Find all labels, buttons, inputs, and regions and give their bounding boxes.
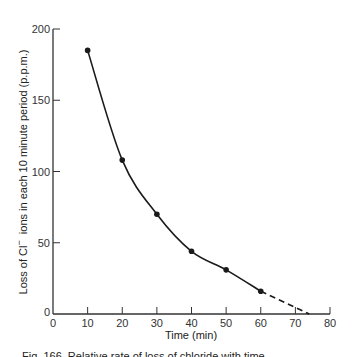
data-point [119,157,125,163]
chart: 01020304050607080050100150200 Time (min)… [0,0,352,357]
x-tick-label: 30 [151,317,163,329]
y-tick-label: 100 [32,166,50,178]
y-axis-title-post: ions in each 10 minute period (p.p.m.) [17,50,29,241]
data-point [258,288,264,294]
y-tick-label: 0 [44,306,50,318]
x-axis-title: Time (min) [165,329,217,341]
y-axis-title-pre: Loss of Cl [17,246,29,295]
x-tick-label: 60 [255,317,267,329]
y-tick-label: 150 [32,94,50,106]
x-tick-label: 10 [82,317,94,329]
data-point [223,267,229,273]
y-tick-label: 200 [32,23,50,35]
data-point [85,48,91,54]
x-tick-label: 40 [185,317,197,329]
x-tick-label: 0 [50,317,56,329]
series-line [88,50,261,291]
data-point [189,249,195,255]
x-tick-label: 50 [220,317,232,329]
x-tick-label: 70 [289,317,301,329]
data-point [154,211,160,217]
extrapolation-line [261,291,309,314]
y-tick-label: 50 [38,237,50,249]
ticks: 01020304050607080050100150200 [32,23,336,329]
figure-caption: Fig. 166. Relative rate of loss of chlor… [22,349,352,357]
x-tick-label: 80 [324,317,336,329]
x-tick-label: 20 [116,317,128,329]
y-axis-title: Loss of Cl− ions in each 10 minute perio… [14,50,29,295]
data-series [85,48,309,314]
